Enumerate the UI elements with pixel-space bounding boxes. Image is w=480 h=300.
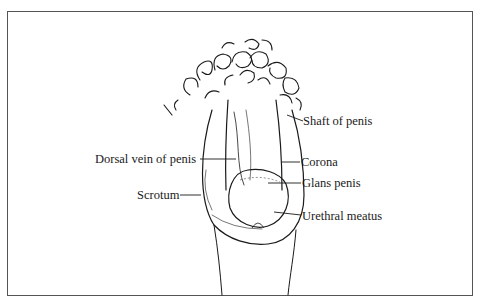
scrotum-outline: [203, 110, 305, 295]
glans-outline: [229, 170, 288, 228]
label-urethral-meatus: Urethral meatus: [302, 210, 382, 223]
diagram-canvas: Shaft of penis Dorsal vein of penis Coro…: [0, 0, 480, 300]
label-glans-penis: Glans penis: [302, 177, 361, 190]
label-dorsal-vein: Dorsal vein of penis: [95, 153, 196, 166]
label-corona: Corona: [301, 156, 338, 169]
leader-lines: [180, 115, 303, 215]
hair-region: [164, 39, 301, 115]
anatomical-figure: [0, 0, 480, 300]
label-shaft-of-penis: Shaft of penis: [303, 115, 372, 128]
label-scrotum: Scrotum: [137, 189, 179, 202]
shaft-outline: [226, 100, 282, 190]
